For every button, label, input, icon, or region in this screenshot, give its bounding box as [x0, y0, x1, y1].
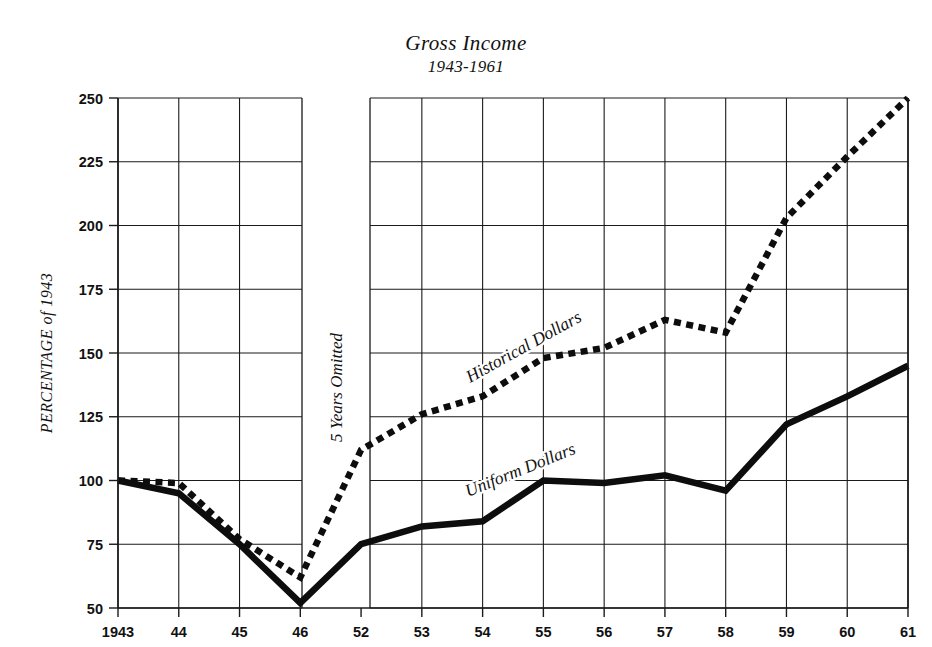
- y-tick-marks-group: [109, 98, 118, 608]
- y-tick-label-75: 75: [87, 537, 103, 553]
- gross-income-line-chart: 5 Years Omitted 507510012515017520022525…: [0, 0, 932, 647]
- y-axis-title: PERCENTAGE of 1943: [38, 273, 56, 435]
- annotation-uniform-label: Uniform Dollars: [462, 438, 578, 501]
- y-tick-label-150: 150: [79, 346, 103, 362]
- series-uniform-dollars: [118, 366, 908, 603]
- y-tick-label-50: 50: [87, 601, 103, 617]
- x-tick-label-57: 57: [657, 624, 673, 640]
- x-tick-label-58: 58: [718, 624, 734, 640]
- x-tick-label-59: 59: [778, 624, 794, 640]
- annotation-uniform-dollars: Uniform Dollars: [462, 438, 578, 501]
- x-tick-labels-group: 194344454652535455565758596061: [102, 624, 916, 640]
- x-tick-label-54: 54: [475, 624, 491, 640]
- x-tick-label-55: 55: [535, 624, 551, 640]
- annotation-historical-label: Historical Dollars: [461, 306, 584, 387]
- series-historical-dollars: [118, 98, 908, 577]
- annotation-historical-dollars: Historical Dollars: [461, 306, 584, 387]
- y-tick-label-200: 200: [79, 218, 103, 234]
- chart-page: Gross Income 1943-1961 5 Years Omitted 5…: [0, 0, 932, 647]
- x-tick-label-1943: 1943: [102, 624, 134, 640]
- x-tick-label-60: 60: [839, 624, 855, 640]
- x-tick-label-53: 53: [414, 624, 430, 640]
- x-tick-label-52: 52: [353, 624, 369, 640]
- axis-break-label: 5 Years Omitted: [327, 333, 346, 442]
- x-tick-label-61: 61: [900, 624, 916, 640]
- y-tick-label-225: 225: [79, 154, 103, 170]
- x-tick-label-45: 45: [231, 624, 247, 640]
- y-tick-labels-group: 5075100125150175200225250: [79, 91, 103, 617]
- axis-break-label-group: 5 Years Omitted: [326, 280, 348, 450]
- y-tick-label-250: 250: [79, 91, 103, 107]
- x-tick-label-44: 44: [171, 624, 187, 640]
- x-tick-marks-group: [118, 608, 908, 617]
- x-tick-label-46: 46: [292, 624, 308, 640]
- y-tick-label-100: 100: [79, 473, 103, 489]
- y-tick-label-125: 125: [79, 409, 103, 425]
- y-tick-label-175: 175: [79, 282, 103, 298]
- x-tick-label-56: 56: [596, 624, 612, 640]
